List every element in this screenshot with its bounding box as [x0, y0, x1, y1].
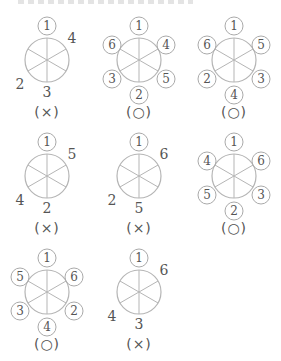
wheel-figure: 145236(○)	[92, 8, 186, 126]
circled-number-label: 3	[103, 70, 122, 89]
circled-number-label: 1	[130, 249, 149, 268]
circled-number-label: 2	[225, 202, 244, 221]
number-label: 6	[160, 147, 169, 161]
circled-number-label: 1	[225, 17, 244, 36]
circled-number-label: 1	[38, 17, 57, 36]
number-label: 6	[160, 263, 169, 277]
wheel-figure: 1524(×)	[0, 124, 94, 242]
answer-mark: (×)	[34, 220, 60, 236]
number-label: 4	[108, 309, 117, 323]
number-label: 2	[16, 77, 25, 91]
number-label: 4	[68, 31, 77, 45]
answer-mark: (○)	[221, 104, 247, 120]
circled-number-label: 5	[157, 70, 176, 89]
circled-number-label: 1	[38, 133, 57, 152]
circled-number-label: 1	[130, 17, 149, 36]
number-label: 5	[68, 147, 77, 161]
circled-number-label: 5	[252, 36, 271, 55]
clipped-header-text	[18, 0, 193, 4]
circled-number-label: 3	[252, 186, 271, 205]
circled-number-label: 1	[38, 249, 57, 268]
circled-number-label: 5	[198, 186, 217, 205]
wheel-figure: 153426(○)	[187, 8, 281, 126]
answer-mark: (○)	[126, 104, 152, 120]
number-label: 5	[135, 201, 144, 215]
answer-mark: (○)	[221, 220, 247, 236]
circled-number-label: 3	[11, 302, 30, 321]
answer-mark: (×)	[126, 220, 152, 236]
wheel-figure: 162435(○)	[0, 240, 94, 358]
circled-number-label: 2	[130, 86, 149, 105]
circled-number-label: 4	[225, 86, 244, 105]
circled-number-label: 2	[198, 70, 217, 89]
answer-mark: (○)	[34, 336, 60, 352]
wheel-figure: 1634(×)	[92, 240, 186, 358]
circled-number-label: 6	[198, 36, 217, 55]
number-label: 2	[108, 193, 117, 207]
circled-number-label: 3	[252, 70, 271, 89]
number-label: 4	[16, 193, 25, 207]
circled-number-label: 2	[65, 302, 84, 321]
answer-mark: (×)	[34, 104, 60, 120]
number-label: 3	[135, 317, 144, 331]
circled-number-label: 6	[65, 268, 84, 287]
circled-number-label: 5	[11, 268, 30, 287]
circled-number-label: 6	[103, 36, 122, 55]
wheel-figure: 1652(×)	[92, 124, 186, 242]
circled-number-label: 4	[38, 318, 57, 337]
wheel-figure: 1432(×)	[0, 8, 94, 126]
answer-mark: (×)	[126, 336, 152, 352]
circled-number-label: 1	[225, 133, 244, 152]
wheel-figure: 163254(○)	[187, 124, 281, 242]
circled-number-label: 6	[252, 152, 271, 171]
circled-number-label: 4	[198, 152, 217, 171]
number-label: 3	[43, 85, 52, 99]
circled-number-label: 1	[130, 133, 149, 152]
number-label: 2	[43, 201, 52, 215]
circled-number-label: 4	[157, 36, 176, 55]
